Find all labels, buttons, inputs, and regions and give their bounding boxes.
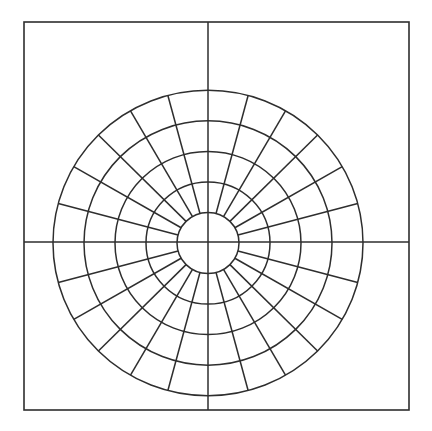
spoke-285deg: [216, 272, 248, 390]
spoke-225deg: [98, 265, 186, 351]
polar-grid-diagram: [0, 0, 432, 431]
spoke-195deg: [58, 251, 178, 283]
spoke-255deg: [168, 272, 200, 390]
spoke-75deg: [216, 96, 248, 214]
spoke-30deg: [235, 167, 342, 228]
spoke-240deg: [131, 269, 193, 375]
spoke-45deg: [230, 135, 318, 221]
spoke-300deg: [224, 269, 286, 375]
spoke-105deg: [168, 96, 200, 214]
spoke-15deg: [238, 203, 358, 235]
spoke-60deg: [224, 111, 286, 217]
spoke-210deg: [74, 258, 181, 319]
spoke-165deg: [58, 203, 178, 235]
outer-frame: [24, 22, 409, 410]
spoke-345deg: [238, 251, 358, 283]
spoke-120deg: [131, 111, 193, 217]
spoke-135deg: [98, 135, 186, 221]
spoke-315deg: [230, 265, 318, 351]
spoke-150deg: [74, 167, 181, 228]
spoke-330deg: [235, 258, 342, 319]
